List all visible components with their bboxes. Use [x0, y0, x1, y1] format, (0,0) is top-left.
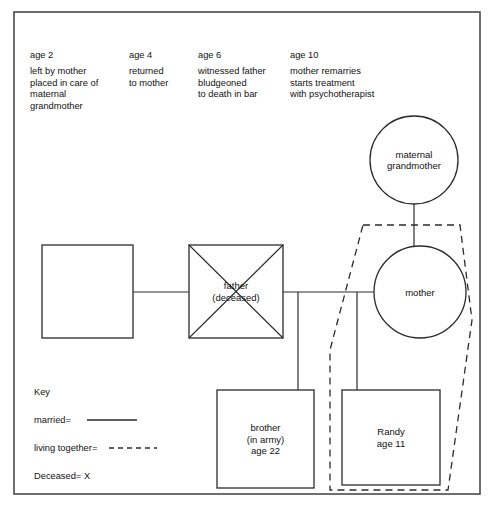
node-label-father-0: father	[224, 280, 248, 291]
node-label-brother-0: brother	[250, 422, 280, 433]
genogram-page: maternalgrandmothermotherfather(deceased…	[0, 0, 496, 508]
timeline-age-0: age 2	[30, 50, 53, 60]
node-brother: brother(in army)age 22	[217, 390, 314, 488]
timeline-text-0: left by mother placed in care of materna…	[30, 66, 126, 112]
node-shape-unnamed-male	[42, 245, 133, 338]
key-title: Key	[34, 387, 50, 397]
timeline-age-3: age 10	[290, 50, 318, 60]
node-label-randy-1: age 11	[377, 438, 405, 449]
timeline-text-2: witnessed father bludgeoned to death in …	[198, 66, 288, 101]
node-unnamed-male	[42, 245, 133, 338]
node-label-brother-2: age 22	[251, 445, 280, 456]
node-mother: mother	[374, 246, 466, 338]
node-label-randy-0: Randy	[377, 426, 405, 437]
key-item-deceased-label: Deceased= X	[34, 471, 90, 481]
node-maternal-grandmother: maternalgrandmother	[370, 116, 458, 204]
node-label-mother-0: mother	[405, 287, 435, 298]
timeline-text-1: returned to mother	[129, 66, 195, 89]
timeline-age-2: age 6	[198, 50, 221, 60]
node-label-father-1: (deceased)	[212, 292, 260, 303]
key-symbols-group	[87, 420, 157, 448]
key-item-living-together-label: living together=	[34, 443, 97, 453]
key-item-married-label: married=	[34, 415, 71, 425]
timeline-text-3: mother remarries starts treatment with p…	[290, 66, 410, 101]
node-father: father(deceased)	[189, 245, 283, 338]
node-label-maternal-grandmother-1: grandmother	[387, 160, 441, 171]
node-randy: Randyage 11	[342, 390, 440, 485]
timeline-age-1: age 4	[129, 50, 152, 60]
node-label-maternal-grandmother-0: maternal	[396, 149, 433, 160]
nodes-group: maternalgrandmothermotherfather(deceased…	[42, 116, 466, 488]
node-label-brother-1: (in army)	[247, 434, 284, 445]
